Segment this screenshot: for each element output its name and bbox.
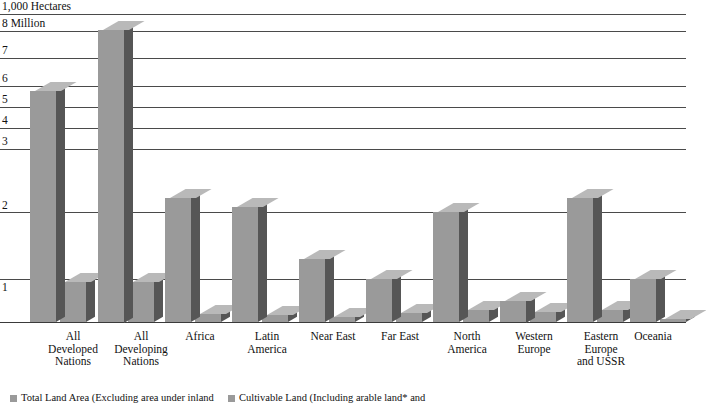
y-tick-1: 1: [2, 282, 8, 294]
x-label-line: Oceania: [620, 330, 686, 343]
gridline-top: [0, 14, 686, 15]
y-axis-unit-caption: 1,000 Hectares: [2, 1, 71, 13]
x-axis-baseline: [0, 322, 686, 323]
bar-side-face: [191, 193, 200, 322]
bar-side-face: [656, 274, 665, 322]
bar-group: [433, 321, 498, 322]
bar-group: [500, 321, 565, 322]
legend-entry-total-land-area: Total Land Area (Excluding area under in…: [10, 392, 214, 404]
bar-total-land-area: [567, 198, 593, 322]
bar-side-face: [154, 277, 163, 322]
bar-total-land-area: [165, 198, 191, 322]
y-tick-5: 5: [2, 94, 8, 106]
bar-side-face: [459, 207, 468, 322]
bar-side-face: [56, 86, 65, 322]
bar-group: [30, 321, 95, 322]
x-label-line: Europe: [556, 343, 646, 356]
bar-cultivable-land: [329, 317, 355, 322]
y-tick-6: 6: [2, 73, 8, 85]
x-label-line: America: [222, 343, 312, 356]
legend: Total Land Area (Excluding area under in…: [0, 392, 686, 408]
bar-front-face: [165, 198, 191, 322]
bar-front-face: [567, 198, 593, 322]
legend-entry-cultivable-land: Cultivable Land (Including arable land* …: [228, 392, 425, 404]
bar-front-face: [660, 319, 686, 322]
bar-front-face: [232, 207, 258, 322]
plot-area: 1,000 Hectares 8 Million 7 6 5 4 3 2 1: [0, 0, 686, 330]
bar-side-face: [124, 24, 133, 322]
bar-top-face: [371, 270, 413, 279]
bar-total-land-area: [299, 259, 325, 322]
bar-total-land-area: [630, 279, 656, 322]
bar-group: [366, 321, 431, 322]
y-tick-8: 8 Million: [2, 18, 45, 30]
bar-top-face: [635, 270, 677, 279]
bar-total-land-area: [433, 212, 459, 322]
bar-side-face: [593, 193, 602, 322]
bar-front-face: [98, 30, 124, 323]
bar-total-land-area: [500, 301, 526, 323]
bar-side-face: [258, 202, 267, 322]
bar-front-face: [329, 317, 355, 322]
bar-total-land-area: [98, 30, 124, 323]
bar-top-face: [505, 292, 547, 301]
bar-front-face: [299, 259, 325, 322]
bar-top-face: [103, 21, 145, 30]
bar-side-face: [86, 277, 95, 322]
bar-top-face: [665, 310, 706, 319]
bar-top-face: [572, 189, 614, 198]
x-label-line: and USSR: [556, 355, 646, 368]
bar-front-face: [630, 279, 656, 322]
x-label-oceania: Oceania: [620, 330, 686, 343]
bar-top-face: [438, 203, 480, 212]
legend-swatch-icon: [228, 395, 235, 402]
bar-cultivable-land: [660, 319, 686, 322]
bar-side-face: [325, 254, 334, 322]
legend-swatch-icon: [10, 395, 17, 402]
y-tick-2: 2: [2, 200, 8, 212]
x-label-line: Developing: [96, 343, 186, 356]
bar-front-face: [500, 301, 526, 323]
bar-group: [299, 321, 364, 322]
bar-total-land-area: [30, 91, 56, 322]
bar-top-face: [170, 189, 212, 198]
bar-group: [165, 321, 230, 322]
bar-group: [232, 321, 297, 322]
bar-side-face: [392, 274, 401, 322]
bar-total-land-area: [366, 279, 392, 322]
y-tick-3: 3: [2, 136, 8, 148]
bar-total-land-area: [232, 207, 258, 322]
bar-group: [630, 321, 695, 322]
bar-top-face: [304, 250, 346, 259]
bar-group: [98, 321, 163, 322]
bar-group: [567, 321, 632, 322]
bar-top-face: [237, 198, 279, 207]
bar-front-face: [366, 279, 392, 322]
bar-front-face: [433, 212, 459, 322]
legend-label: Cultivable Land (Including arable land* …: [239, 392, 425, 404]
y-tick-7: 7: [2, 45, 8, 57]
bar-front-face: [30, 91, 56, 322]
legend-label: Total Land Area (Excluding area under in…: [21, 392, 214, 404]
x-label-line: Nations: [96, 355, 186, 368]
y-tick-4: 4: [2, 115, 8, 127]
